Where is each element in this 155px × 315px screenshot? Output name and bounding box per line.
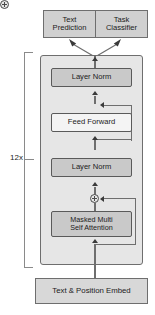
task-classifier-label: Task Classifier	[106, 16, 137, 32]
architecture-diagram: Text Prediction Task Classifier Layer No…	[0, 0, 155, 315]
repeat-bracket-tick	[24, 159, 34, 160]
add-node-top	[0, 0, 9, 9]
connector-lntop-to-out	[94, 61, 95, 68]
arrowhead-residual-attn-into-add	[100, 196, 104, 202]
layer-norm-bottom-label: Layer Norm	[72, 163, 112, 171]
masked-attention-label: Masked Multi Self Attention	[70, 216, 112, 232]
residual-attn-bottom-tap	[94, 244, 136, 245]
text-position-embed-label: Text & Position Embed	[52, 287, 130, 295]
repeat-count-label: 12x	[2, 153, 23, 162]
arrowhead-lntop-to-out	[92, 57, 98, 61]
layer-norm-top-label: Layer Norm	[72, 73, 112, 81]
layer-norm-top-box: Layer Norm	[51, 68, 132, 87]
residual-attn-top-return	[104, 198, 136, 199]
residual-ff-bottom-tap	[94, 139, 132, 140]
residual-ff-top-return	[104, 105, 132, 106]
task-classifier-box: Task Classifier	[95, 10, 148, 38]
arrowhead-addbottom-to-lnbottom	[92, 182, 98, 186]
arrowhead-residual-ff-into-add	[100, 102, 104, 108]
arrowhead-addtop-to-lntop	[92, 91, 98, 95]
feed-forward-box: Feed Forward	[51, 113, 132, 132]
connector-lnbottom-to-ff	[94, 140, 95, 150]
feed-forward-label: Feed Forward	[68, 118, 115, 126]
connector-addtop-to-lntop	[94, 96, 95, 104]
residual-attn-right-riser	[135, 198, 136, 245]
text-prediction-label: Text Prediction	[53, 16, 87, 32]
text-prediction-box: Text Prediction	[43, 10, 96, 38]
task-classifier-line2: Classifier	[106, 23, 137, 32]
connector-embed-to-attn	[94, 245, 95, 278]
arrowhead-lnbottom-to-ff	[92, 136, 98, 140]
connector-attn-to-addbottom	[94, 203, 95, 211]
add-node-bottom	[90, 194, 99, 203]
text-position-embed-box: Text & Position Embed	[35, 278, 148, 304]
layer-norm-bottom-box: Layer Norm	[51, 158, 132, 177]
masked-multi-self-attention-box: Masked Multi Self Attention	[51, 211, 132, 237]
arrowhead-embed-to-attn	[92, 239, 98, 243]
text-prediction-line2: Prediction	[53, 23, 87, 32]
masked-attention-line2: Self Attention	[70, 223, 112, 232]
